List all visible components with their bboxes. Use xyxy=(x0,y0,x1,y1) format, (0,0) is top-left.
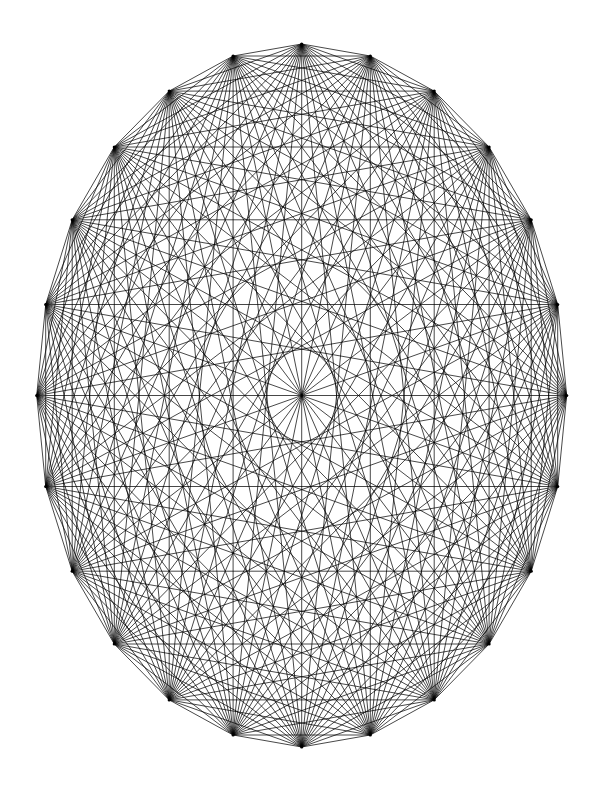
graph-vertex xyxy=(488,145,491,148)
edge-layer xyxy=(37,44,567,747)
graph-vertex xyxy=(300,42,303,45)
graph-vertex xyxy=(113,145,116,148)
graph-vertex xyxy=(44,485,47,488)
graph-vertex xyxy=(369,733,372,736)
graph-vertex xyxy=(556,485,559,488)
graph-vertex xyxy=(113,642,116,645)
graph-vertex xyxy=(369,54,372,57)
graph-vertex xyxy=(488,642,491,645)
graph-vertex xyxy=(35,394,38,397)
graph-vertex xyxy=(530,218,533,221)
figure-root xyxy=(0,0,600,800)
complete-graph-diagram xyxy=(0,0,600,800)
graph-vertex xyxy=(71,570,74,573)
graph-vertex xyxy=(44,303,47,306)
graph-vertex xyxy=(556,303,559,306)
graph-vertex xyxy=(71,218,74,221)
graph-vertex xyxy=(168,90,171,93)
graph-vertex xyxy=(433,90,436,93)
graph-vertex xyxy=(168,698,171,701)
graph-vertex xyxy=(433,698,436,701)
graph-vertex xyxy=(232,733,235,736)
graph-vertex xyxy=(565,394,568,397)
graph-vertex xyxy=(232,54,235,57)
graph-vertex xyxy=(300,745,303,748)
graph-vertex xyxy=(530,570,533,573)
